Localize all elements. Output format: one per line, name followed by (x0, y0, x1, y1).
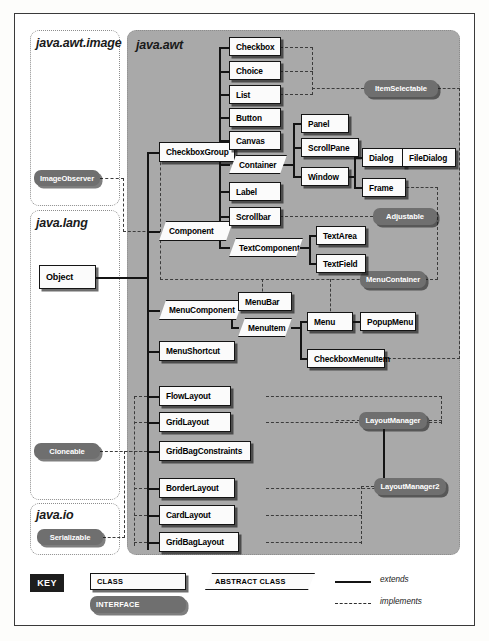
interface-cloneable-label: Cloneable (49, 447, 84, 456)
class-menu[interactable]: Menu (307, 312, 353, 331)
class-dialog[interactable]: Dialog (362, 148, 406, 167)
class-window[interactable]: Window (301, 167, 349, 186)
class-cardlayout[interactable]: CardLayout (159, 505, 235, 525)
edge-object-menucomponent (147, 310, 160, 312)
class-filedialog[interactable]: FileDialog (402, 148, 456, 167)
dash-flowlayout-right (266, 396, 442, 397)
class-choice-label: Choice (236, 66, 263, 76)
class-menushortcut-label: MenuShortcut (166, 346, 220, 356)
interface-menucontainer-label: MenuContainer (366, 275, 420, 284)
package-label-java-lang: java.lang (36, 216, 88, 230)
class-textarea[interactable]: TextArea (316, 226, 366, 245)
key-implements-line (335, 603, 371, 604)
dash-layoutmanager2-in (361, 486, 374, 487)
class-menubar[interactable]: MenuBar (238, 292, 292, 311)
dash-cloneable-col (134, 396, 135, 546)
class-canvas[interactable]: Canvas (229, 131, 281, 150)
interface-adjustable-label: Adjustable (386, 212, 424, 221)
dash-gridbaglayout-right (266, 542, 362, 543)
class-textcomponent[interactable]: TextComponent (229, 238, 303, 257)
key-badge-label: KEY (37, 578, 57, 588)
class-menucomponent-label: MenuComponent (167, 305, 235, 315)
class-checkboxmenuitem-label: CheckboxMenuItem (314, 354, 390, 364)
class-checkbox[interactable]: Checkbox (229, 37, 281, 56)
class-gridbagconstraints[interactable]: GridBagConstraints (159, 441, 251, 461)
class-button[interactable]: Button (229, 108, 281, 127)
class-checkboxmenuitem[interactable]: CheckboxMenuItem (307, 349, 385, 368)
class-borderlayout[interactable]: BorderLayout (159, 478, 235, 498)
edge-menucomponent-menuitem (231, 327, 239, 329)
class-filedialog-label: FileDialog (409, 153, 447, 163)
key-abstract-label: ABSTRACT CLASS (213, 577, 286, 586)
class-button-label: Button (236, 113, 262, 123)
dash-layoutmanager-left-in (336, 420, 360, 421)
package-label-java-awt: java.awt (136, 38, 183, 52)
key-implements-label: implements (380, 597, 422, 606)
class-scrollbar[interactable]: Scrollbar (229, 207, 281, 226)
dash-itemselectable-in (312, 88, 364, 89)
class-scrollpane-label: ScrollPane (308, 143, 349, 153)
class-frame[interactable]: Frame (362, 178, 406, 197)
class-gridbaglayout[interactable]: GridBagLayout (159, 532, 239, 552)
class-panel[interactable]: Panel (301, 114, 349, 133)
class-flowlayout[interactable]: FlowLayout (159, 386, 231, 406)
key-legend: KEY CLASS INTERFACE ABSTRACT CLASS exten… (30, 572, 460, 614)
class-menucomponent[interactable]: MenuComponent (159, 300, 243, 320)
class-checkboxgroup[interactable]: CheckboxGroup (159, 142, 235, 162)
interface-layoutmanager-label: LayoutManager (366, 416, 421, 425)
class-container[interactable]: Container (229, 155, 287, 174)
edge-textcomponent-spine (309, 235, 311, 265)
key-extends-label: extends (380, 575, 409, 584)
class-object-label: Object (46, 272, 73, 282)
class-menushortcut[interactable]: MenuShortcut (159, 341, 235, 361)
class-gridbagconstraints-label: GridBagConstraints (166, 446, 242, 456)
class-menuitem-label: MenuItem (246, 323, 286, 333)
class-textarea-label: TextArea (323, 231, 357, 241)
class-dialog-label: Dialog (369, 153, 393, 163)
class-component[interactable]: Component (159, 221, 233, 241)
class-label[interactable]: Label (229, 182, 281, 201)
key-sample-class: CLASS (90, 573, 186, 590)
interface-cloneable[interactable]: Cloneable (34, 443, 100, 459)
edge-window-spine (354, 157, 356, 188)
class-cardlayout-label: CardLayout (166, 510, 211, 520)
interface-adjustable[interactable]: Adjustable (373, 208, 437, 225)
dash-serializable-col (124, 451, 125, 538)
interface-layoutmanager[interactable]: LayoutManager (359, 412, 427, 429)
class-list-label: List (236, 90, 250, 100)
dash-imageobserver-col (123, 178, 124, 232)
class-choice[interactable]: Choice (229, 61, 281, 80)
class-popupmenu[interactable]: PopupMenu (360, 312, 416, 331)
interface-serializable[interactable]: Serializable (37, 529, 103, 545)
interface-imageobserver-label: ImageObserver (40, 174, 94, 183)
key-sample-abstract: ABSTRACT CLASS (205, 573, 315, 590)
dash-scrollbar-adjustable (280, 216, 373, 217)
class-gridlayout[interactable]: GridLayout (159, 412, 231, 432)
dash-checkbox-right (280, 47, 313, 48)
interface-layoutmanager2[interactable]: LayoutManager2 (374, 478, 446, 495)
class-textfield[interactable]: TextField (316, 254, 366, 273)
class-list[interactable]: List (229, 85, 281, 104)
dash-serializable-out (103, 537, 125, 538)
class-scrollpane[interactable]: ScrollPane (301, 138, 359, 157)
edge-component-container (219, 164, 230, 166)
class-menuitem[interactable]: MenuItem (238, 318, 292, 337)
dash-component-menucontainer (160, 240, 161, 280)
interface-menucontainer[interactable]: MenuContainer (360, 271, 426, 288)
class-frame-label: Frame (369, 183, 393, 193)
class-object[interactable]: Object (39, 265, 96, 289)
interface-itemselectable[interactable]: ItemSelectable (364, 80, 438, 97)
package-java-awt (127, 30, 460, 555)
package-label-java-awt-image: java.awt.image (36, 36, 121, 50)
key-badge: KEY (30, 574, 64, 592)
class-container-label: Container (237, 160, 276, 170)
interface-itemselectable-label: ItemSelectable (375, 84, 427, 93)
key-extends-line (335, 581, 371, 583)
class-window-label: Window (308, 172, 339, 182)
class-textcomponent-label: TextComponent (237, 243, 300, 253)
class-component-label: Component (167, 226, 214, 236)
edge-component-textcomponent (219, 247, 230, 249)
interface-imageobserver[interactable]: ImageObserver (34, 170, 100, 186)
class-gridlayout-label: GridLayout (166, 417, 209, 427)
class-textfield-label: TextField (323, 259, 357, 269)
